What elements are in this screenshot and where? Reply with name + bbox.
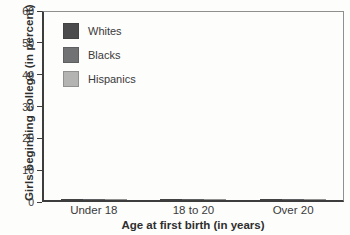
y-axis: 0102030405060 — [0, 11, 42, 202]
y-tick: 60 — [4, 5, 42, 17]
bar-whites-18-to-20 — [160, 199, 182, 200]
legend-item-whites: Whites — [63, 23, 136, 39]
bar-hispanics-over-20 — [304, 199, 326, 200]
x-axis-title: Age at first birth (in years) — [42, 219, 344, 231]
x-category-label: Over 20 — [273, 204, 314, 216]
y-tick: 50 — [4, 37, 42, 49]
y-tick: 20 — [4, 132, 42, 144]
y-tick-label: 30 — [4, 101, 37, 113]
x-category-label: 18 to 20 — [173, 204, 215, 216]
y-tick-label: 60 — [4, 5, 37, 17]
legend-label: Blacks — [88, 49, 120, 61]
y-tick: 40 — [4, 69, 42, 81]
legend-swatch — [63, 23, 79, 39]
bar-group-over-20: Over 20 — [260, 199, 326, 200]
bar-group-18-to-20: 18 to 20 — [160, 199, 226, 200]
legend-label: Hispanics — [88, 73, 136, 85]
legend-item-hispanics: Hispanics — [63, 71, 136, 87]
y-tick-label: 40 — [4, 69, 37, 81]
legend: WhitesBlacksHispanics — [63, 23, 136, 87]
bar-chart-figure: Girls beginning college (in percent) 010… — [0, 0, 350, 235]
bar-blacks-under-18 — [83, 199, 105, 200]
y-tick: 10 — [4, 164, 42, 176]
x-category-label: Under 18 — [70, 204, 117, 216]
legend-swatch — [63, 47, 79, 63]
legend-label: Whites — [88, 25, 122, 37]
y-tick-label: 10 — [4, 164, 37, 176]
y-tick: 0 — [4, 196, 42, 208]
bar-blacks-18-to-20 — [182, 199, 204, 200]
y-tick: 30 — [4, 101, 42, 113]
bar-hispanics-under-18 — [105, 199, 127, 200]
y-tick-label: 0 — [4, 196, 37, 208]
bar-group-under-18: Under 18 — [61, 199, 127, 200]
bar-blacks-over-20 — [282, 199, 304, 200]
y-tick-label: 50 — [4, 37, 37, 49]
bar-whites-over-20 — [260, 199, 282, 200]
plot-area: Under 1818 to 20Over 20 WhitesBlacksHisp… — [42, 11, 344, 202]
bar-hispanics-18-to-20 — [204, 199, 226, 200]
legend-swatch — [63, 71, 79, 87]
legend-item-blacks: Blacks — [63, 47, 136, 63]
y-tick-label: 20 — [4, 132, 37, 144]
bar-whites-under-18 — [61, 199, 83, 200]
